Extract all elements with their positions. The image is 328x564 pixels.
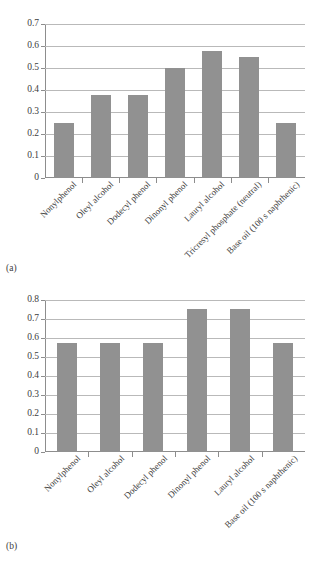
- y-axis-tick-label: 0.7: [27, 314, 39, 324]
- bar: [230, 309, 250, 452]
- bar: [91, 95, 111, 178]
- x-axis-tick: [268, 178, 269, 183]
- bar: [100, 343, 120, 452]
- bar-slot: [262, 300, 305, 452]
- bar: [187, 309, 207, 452]
- bar: [54, 123, 74, 178]
- bar-slot: [119, 24, 156, 178]
- bar-slot: [88, 300, 131, 452]
- bar-slot: [175, 300, 218, 452]
- x-axis-tick: [231, 178, 232, 183]
- y-axis-tick-label: 0.1: [27, 151, 39, 161]
- bar: [143, 343, 163, 452]
- y-axis-tick-label: 0.6: [27, 41, 39, 51]
- y-axis-tick-label: 0.7: [27, 19, 39, 29]
- x-axis-tick: [82, 178, 83, 183]
- running-head: [150, 0, 328, 6]
- bar-series: [45, 300, 305, 452]
- bar-slot: [82, 24, 119, 178]
- y-axis-tick-label: 0.2: [27, 409, 39, 419]
- y-axis-tick-label: 0.6: [27, 333, 39, 343]
- y-axis-tick-label: 0.5: [27, 63, 39, 73]
- category-label: Base oil (100 s naphthenic): [225, 180, 301, 256]
- category-label: Dinonyl phenol: [166, 454, 212, 500]
- bar-slot: [45, 24, 82, 178]
- y-axis-tick-label: 0.4: [27, 85, 39, 95]
- bar: [202, 51, 222, 178]
- figure-a: 00.10.20.30.40.50.60.7 NonylphenolOleyl …: [0, 8, 328, 282]
- bar-slot: [218, 300, 261, 452]
- figure-a-caption: (a): [6, 263, 17, 273]
- chart-b-plot-area: 00.10.20.30.40.50.60.70.8: [45, 300, 305, 452]
- y-axis-tick-label: 0.2: [27, 129, 39, 139]
- bar-slot: [45, 300, 88, 452]
- category-label: Dodecyl phenol: [123, 454, 170, 501]
- y-axis-tick-label: 0.4: [27, 371, 39, 381]
- bar: [165, 68, 185, 178]
- y-axis-tick: [41, 452, 45, 453]
- category-label: Nonylphenol: [43, 454, 83, 494]
- category-label: Oleyl alcohol: [86, 454, 127, 495]
- figure-b-caption: (b): [6, 541, 17, 551]
- y-axis-tick-label: 0.3: [27, 107, 39, 117]
- y-axis-tick-label: 0.3: [27, 390, 39, 400]
- bar-slot: [231, 24, 268, 178]
- category-label: Nonylphenol: [39, 180, 79, 220]
- y-axis-tick-label: 0: [34, 173, 39, 183]
- x-axis-tick: [194, 178, 195, 183]
- bar-slot: [268, 24, 305, 178]
- category-label: Tricresyl phosphate (neutral): [183, 180, 263, 260]
- y-axis-tick: [41, 178, 45, 179]
- y-axis-tick-label: 0.8: [27, 295, 39, 305]
- bar-series: [45, 24, 305, 178]
- y-axis-tick-label: 0.5: [27, 352, 39, 362]
- x-axis-tick: [262, 452, 263, 457]
- x-axis-tick: [218, 452, 219, 457]
- x-axis-tick: [156, 178, 157, 183]
- bar: [128, 95, 148, 178]
- x-axis-tick: [119, 178, 120, 183]
- bar-slot: [132, 300, 175, 452]
- x-axis-tick: [175, 452, 176, 457]
- bar: [239, 57, 259, 178]
- category-label: Base oil (100 s naphthenic): [223, 454, 299, 530]
- chart-a-plot-area: 00.10.20.30.40.50.60.7: [45, 24, 305, 178]
- bar-slot: [156, 24, 193, 178]
- x-axis-tick: [88, 452, 89, 457]
- bar: [273, 343, 293, 452]
- y-axis-tick-label: 0: [34, 447, 39, 457]
- bar: [57, 343, 77, 452]
- figure-b: 00.10.20.30.40.50.60.70.8 NonylphenolOle…: [0, 288, 328, 564]
- category-label: Lauryl alcohol: [213, 454, 257, 498]
- x-axis-tick: [132, 452, 133, 457]
- y-axis-tick-label: 0.1: [27, 428, 39, 438]
- bar-slot: [194, 24, 231, 178]
- bar: [276, 123, 296, 178]
